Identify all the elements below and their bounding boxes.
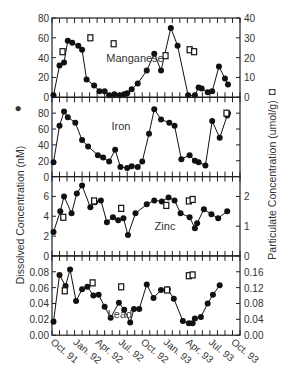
panel-lead: 0.000.020.040.060.080.000.040.080.120.16…	[30, 256, 264, 341]
dissolved-point	[192, 316, 198, 322]
dissolved-point	[224, 208, 230, 214]
left-tick-label: 20	[38, 72, 50, 83]
dissolved-point	[205, 300, 211, 306]
particulate-point	[60, 49, 65, 55]
dissolved-point	[124, 90, 130, 96]
dissolved-point	[158, 287, 164, 293]
dissolved-point	[139, 159, 145, 165]
left-tick-label: 4	[43, 211, 49, 222]
x-axis-tick-labels: Oct. 91Jan. 92Apr. 92Jul. 92Oct. 92Jan. …	[49, 336, 262, 366]
dissolved-point	[215, 215, 221, 221]
right-tick-label: 0.16	[244, 267, 264, 278]
right-tick-label: 30	[244, 33, 256, 44]
particulate-point	[119, 284, 124, 290]
dissolved-point	[102, 304, 108, 310]
particulate-point	[190, 272, 195, 278]
right-tick-label: 0.04	[244, 314, 264, 325]
right-tick-label: 0	[244, 251, 250, 262]
left-tick-label: 40	[38, 140, 50, 151]
dissolved-point	[158, 68, 164, 74]
dissolved-point	[187, 214, 193, 220]
left-tick-label: 20	[38, 156, 50, 167]
dissolved-point	[196, 159, 202, 165]
dissolved-point	[67, 266, 73, 272]
dissolved-point	[100, 155, 106, 161]
dissolved-point	[96, 292, 102, 298]
dissolved-point	[112, 147, 118, 153]
dissolved-point	[217, 282, 223, 288]
panel-iron: 020406080Iron	[38, 97, 240, 182]
right-tick-label: 40	[244, 13, 256, 24]
left-axis-label: Dissolved Concentration (nM)	[14, 146, 26, 284]
particulate-point	[192, 49, 197, 55]
dissolved-point	[117, 164, 123, 170]
dissolved-point	[225, 81, 231, 87]
dissolved-point	[180, 318, 186, 324]
dissolved-point	[202, 162, 208, 168]
dissolved-point	[115, 217, 121, 223]
dissolved-point	[172, 197, 178, 203]
right-tick-label: 1	[244, 221, 250, 232]
dissolved-point	[65, 114, 71, 120]
left-tick-label: 0.04	[30, 298, 50, 309]
dissolved-point	[136, 306, 142, 312]
particulate-point	[88, 35, 93, 41]
dissolved-point	[72, 120, 78, 126]
dissolved-point	[102, 88, 108, 94]
dissolved-point	[57, 208, 63, 214]
dissolved-point	[79, 183, 85, 189]
dissolved-point	[95, 152, 101, 158]
dissolved-point	[57, 123, 63, 129]
dissolved-point	[129, 163, 135, 169]
left-tick-label: 0.00	[30, 330, 50, 341]
dissolved-point	[178, 210, 184, 216]
dissolved-point	[135, 80, 141, 86]
right-tick-label: 0	[244, 92, 250, 103]
dissolved-point	[84, 76, 90, 82]
left-axis-marker-icon: ●	[14, 101, 21, 115]
right-tick-label: 0.00	[244, 330, 264, 341]
dissolved-point	[166, 194, 172, 200]
dissolved-point	[199, 85, 205, 91]
panel-label: Iron	[112, 120, 131, 132]
dissolved-point	[61, 60, 67, 66]
left-tick-label: 2	[43, 231, 49, 242]
dissolved-point	[91, 82, 97, 88]
right-tick-label: 0.08	[244, 298, 264, 309]
dissolved-point	[209, 88, 215, 94]
left-tick-label: 80	[38, 13, 50, 24]
dissolved-point	[87, 204, 93, 210]
dissolved-point	[120, 215, 126, 221]
dissolved-point	[51, 159, 57, 165]
panel-label: Lead	[108, 308, 132, 320]
panel-zinc: 0246012Zinc	[43, 177, 250, 262]
dissolved-point	[209, 118, 215, 124]
dissolved-point	[116, 300, 122, 306]
dissolved-point	[129, 86, 135, 92]
particulate-point	[92, 198, 97, 204]
dissolved-point	[125, 232, 131, 238]
multi-panel-chart: 020406080010203040Manganese020406080Iron…	[0, 0, 289, 378]
particulate-point	[61, 214, 66, 220]
dissolved-point	[175, 43, 181, 49]
dissolved-point	[79, 47, 85, 53]
dissolved-point	[210, 292, 216, 298]
dissolved-point	[216, 64, 222, 70]
particulate-point	[163, 53, 168, 59]
dissolved-point	[168, 25, 174, 31]
left-tick-label: 60	[38, 124, 50, 135]
dissolved-point	[208, 211, 214, 217]
dissolved-point	[111, 91, 117, 97]
dissolved-point	[144, 68, 150, 74]
left-tick-label: 0.02	[30, 314, 50, 325]
dissolved-point	[194, 220, 200, 226]
right-tick-label: 20	[244, 53, 256, 64]
dissolved-point	[104, 219, 110, 225]
dissolved-point	[74, 190, 80, 196]
right-axis-label: Particulate Concentration (umol/g)	[266, 100, 278, 259]
dissolved-point	[201, 206, 207, 212]
dissolved-point	[57, 272, 63, 278]
dissolved-point	[110, 214, 116, 220]
dissolved-point	[158, 117, 164, 123]
dissolved-point	[51, 229, 57, 235]
